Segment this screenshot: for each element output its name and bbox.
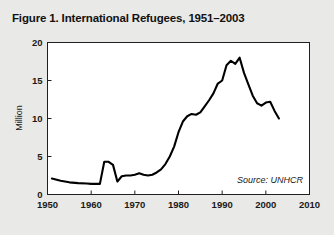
figure-container: Figure 1. International Refugees, 1951–2…	[0, 0, 334, 235]
source-annotation: Source: UNHCR	[237, 175, 304, 185]
x-tick-label: 1990	[212, 199, 233, 210]
x-tick-label: 2000	[255, 199, 276, 210]
x-tick-label: 1970	[124, 199, 145, 210]
chart-area: 05101520 1950196019701980199020002010 Mi…	[0, 30, 334, 222]
y-tick-label: 20	[32, 37, 43, 48]
y-tick-label: 10	[32, 113, 43, 124]
y-axis-title: Million	[14, 105, 24, 131]
x-tick-label: 2010	[299, 199, 320, 210]
x-tick-label: 1960	[81, 199, 102, 210]
x-tick-label: 1980	[168, 199, 189, 210]
figure-title: Figure 1. International Refugees, 1951–2…	[12, 12, 324, 24]
plot-frame	[48, 43, 310, 195]
y-tick-label: 15	[32, 75, 43, 86]
y-tick-label: 5	[37, 151, 43, 162]
refugees-line-chart: 05101520 1950196019701980199020002010 Mi…	[0, 30, 334, 222]
x-tick-label: 1950	[37, 199, 58, 210]
